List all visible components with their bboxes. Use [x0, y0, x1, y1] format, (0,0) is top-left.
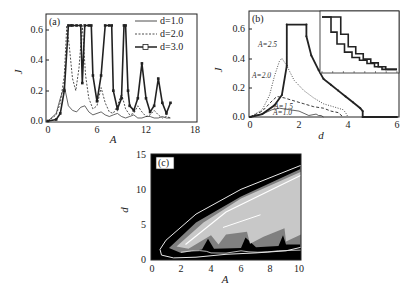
svg-text:12: 12: [141, 124, 151, 135]
svg-text:2: 2: [297, 119, 302, 130]
annotation-A2.5: A=2.5: [257, 40, 277, 49]
svg-text:10: 10: [294, 263, 304, 274]
legend-d3: d=3.0: [160, 41, 183, 52]
svg-text:6: 6: [395, 119, 400, 130]
svg-text:0.6: 0.6: [31, 24, 44, 35]
svg-text:6: 6: [239, 263, 244, 274]
panel-b: (b) A=2.5 A=2.0 A=1.5 A=1.0 0.0 0.2 0.4 …: [212, 11, 400, 141]
panel-b-inset: [320, 11, 399, 73]
panel-c: (c) 0 5 10 15 0 2 4 6 8 10 A d: [118, 149, 304, 285]
panel-a: (a) d=1.0 d=2.0 d=3.0 0.0 0.2 0.4 0.6 0 …: [12, 14, 200, 145]
svg-text:0: 0: [46, 124, 51, 135]
svg-text:0.6: 0.6: [233, 23, 246, 34]
svg-text:15: 15: [136, 149, 146, 160]
svg-text:4: 4: [209, 263, 214, 274]
svg-text:10: 10: [136, 184, 146, 195]
svg-text:2: 2: [179, 263, 184, 274]
svg-text:0: 0: [248, 119, 253, 130]
panel-a-ylabel: J: [12, 68, 24, 74]
svg-text:4: 4: [346, 119, 351, 130]
svg-text:0.0: 0.0: [31, 115, 44, 126]
svg-text:0.2: 0.2: [31, 85, 44, 96]
annotation-A2.0: A=2.0: [251, 71, 271, 80]
panel-c-yticks: 0 5 10 15: [136, 149, 146, 265]
square-marker-icon: [143, 45, 148, 50]
svg-text:0: 0: [150, 263, 155, 274]
panel-c-ylabel: d: [118, 207, 130, 213]
svg-text:0.4: 0.4: [31, 54, 44, 65]
panel-c-label: (c): [158, 157, 169, 169]
figure: (a) d=1.0 d=2.0 d=3.0 0.0 0.2 0.4 0.6 0 …: [0, 0, 409, 294]
legend-d1: d=1.0: [160, 15, 183, 26]
svg-text:18: 18: [190, 124, 200, 135]
legend-d2: d=2.0: [160, 28, 183, 39]
panel-c-xlabel: A: [221, 273, 229, 285]
annotation-A1.0: A=1.0: [272, 108, 292, 117]
panel-a-xticks: 0 6 12 18: [46, 124, 201, 135]
svg-text:5: 5: [141, 219, 146, 230]
svg-text:0.2: 0.2: [233, 82, 246, 93]
panel-b-label: (b): [252, 13, 264, 25]
panel-b-ylabel: J: [212, 66, 224, 72]
panel-a-xlabel: A: [109, 133, 117, 145]
panel-b-xlabel: d: [318, 129, 324, 141]
svg-text:8: 8: [268, 263, 273, 274]
svg-text:0.4: 0.4: [233, 53, 246, 64]
svg-text:0.0: 0.0: [233, 111, 246, 122]
svg-text:6: 6: [95, 124, 100, 135]
panel-a-label: (a): [49, 16, 60, 28]
svg-text:0: 0: [141, 254, 146, 265]
